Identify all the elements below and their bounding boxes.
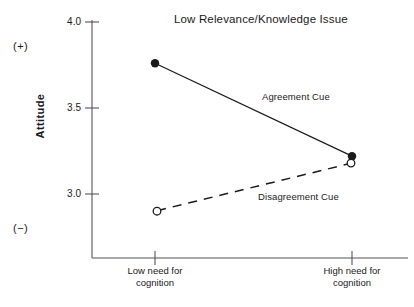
chart-title: Low Relevance/Knowledge Issue — [174, 13, 348, 25]
series-line-agreement-cue — [155, 63, 352, 156]
series-line-disagreement-cue — [157, 164, 350, 211]
plot-area — [0, 0, 414, 307]
series-label-disagreement-cue: Disagreement Cue — [258, 191, 339, 202]
chart-figure: Low Relevance/Knowledge Issue Attitude 4… — [0, 0, 414, 307]
x-tick-label-low-need-line2: cognition — [95, 277, 215, 289]
negative-pole-label: (−) — [13, 222, 28, 234]
data-point-agreement-low — [151, 59, 159, 67]
data-point-disagreement-high — [347, 159, 355, 167]
positive-pole-label: (+) — [13, 40, 28, 52]
x-tick-label-high-need: High need for cognition — [292, 265, 412, 289]
series-label-agreement-cue: Agreement Cue — [262, 91, 330, 102]
y-tick-label-3-0: 3.0 — [47, 188, 81, 199]
y-tick-label-4-0: 4.0 — [47, 16, 81, 27]
x-tick-label-low-need-line1: Low need for — [128, 265, 183, 276]
data-point-disagreement-low — [153, 207, 161, 215]
y-axis-title: Attitude — [34, 71, 46, 161]
x-tick-label-low-need: Low need for cognition — [95, 265, 215, 289]
y-tick-label-3-5: 3.5 — [47, 102, 81, 113]
x-tick-label-high-need-line1: High need for — [323, 265, 380, 276]
x-tick-label-high-need-line2: cognition — [292, 277, 412, 289]
